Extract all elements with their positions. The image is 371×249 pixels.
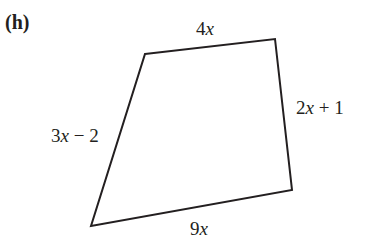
side-label-right: 2x + 1	[296, 98, 344, 117]
side-label-left: 3x − 2	[51, 126, 99, 145]
side-label-bottom: 9x	[190, 219, 208, 238]
diagram-canvas: (h) 4x 2x + 1 3x − 2 9x	[0, 0, 371, 249]
side-label-top: 4x	[196, 19, 214, 38]
